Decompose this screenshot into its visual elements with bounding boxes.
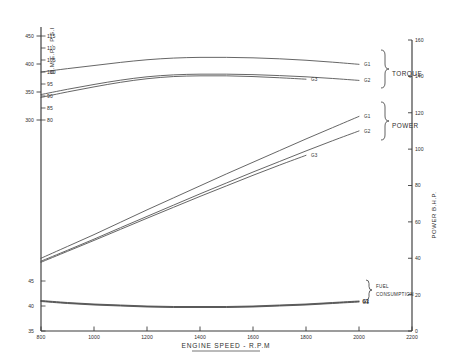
x-tick-label: 2200 bbox=[406, 334, 418, 340]
group-fuel-annotation: FUEL CONSUMPTION bbox=[366, 280, 414, 300]
power-tick-label: 20 bbox=[415, 292, 421, 298]
x-axis-title: ENGINE SPEED - R.P.M bbox=[182, 342, 271, 349]
group-label-fuel-line1: FUEL bbox=[376, 284, 389, 289]
torque-tick-label: 450 bbox=[25, 33, 34, 39]
chart-canvas: 300350400450 80859095100105110115 354045… bbox=[0, 0, 462, 361]
curve-power-g3 bbox=[41, 155, 306, 262]
power-tick-label: 40 bbox=[415, 255, 421, 261]
y-axis-right-title: POWER B.H.P. bbox=[431, 192, 437, 239]
power-tick-label: 60 bbox=[415, 219, 421, 225]
power-tick-label: 100 bbox=[415, 146, 424, 152]
group-label-fuel-line2: CONSUMPTION bbox=[376, 292, 414, 297]
curve-group bbox=[41, 57, 359, 307]
group-power-annotation: POWER bbox=[381, 102, 419, 140]
axis-lines bbox=[41, 27, 412, 331]
x-tick-label: 1400 bbox=[194, 334, 206, 340]
torque-brace bbox=[381, 50, 389, 88]
bmep-tick-label: 85 bbox=[47, 105, 53, 111]
torque-tick-label: 300 bbox=[25, 117, 34, 123]
bmep-tick-label: 95 bbox=[47, 81, 53, 87]
x-tick-group: 8001000120014001600180020002200 bbox=[37, 327, 418, 340]
left-outer-tick-group: 300350400450 bbox=[25, 33, 41, 123]
torque-tick-label: 350 bbox=[25, 89, 34, 95]
power-brace bbox=[381, 102, 389, 140]
series-label-g1: G1 bbox=[364, 62, 371, 67]
bmep-tick-label: 80 bbox=[47, 117, 53, 123]
y-axis-left-title: B.M.E.P - P.S.I bbox=[49, 27, 55, 74]
x-tick-label: 1800 bbox=[300, 334, 312, 340]
group-torque-annotation: TORQUE bbox=[381, 50, 422, 88]
series-label-g2: G2 bbox=[364, 129, 371, 134]
power-tick-label: 120 bbox=[415, 110, 424, 116]
series-label-g2: G2 bbox=[364, 78, 371, 83]
series-label-g3: G3 bbox=[363, 300, 370, 305]
x-tick-label: 1000 bbox=[88, 334, 100, 340]
fuel-tick-label: 40 bbox=[28, 303, 34, 309]
series-label-group: G1G2G3G1G2G3G1G2G3 bbox=[311, 62, 371, 305]
series-label-g1: G1 bbox=[364, 114, 371, 119]
x-tick-label: 800 bbox=[37, 334, 46, 340]
fuel-brace bbox=[366, 280, 372, 300]
x-tick-label: 1600 bbox=[247, 334, 259, 340]
fuel-tick-label: 35 bbox=[28, 328, 34, 334]
series-label-g3: G3 bbox=[311, 153, 318, 158]
power-tick-label: 80 bbox=[415, 182, 421, 188]
series-label-g3: G3 bbox=[311, 77, 318, 82]
torque-tick-label: 400 bbox=[25, 61, 34, 67]
x-tick-label: 2000 bbox=[353, 334, 365, 340]
right-tick-group: 020406080100120140160 bbox=[408, 37, 424, 334]
left-lower-tick-group: 354045 bbox=[28, 278, 45, 334]
curve-torque-g1 bbox=[41, 57, 359, 72]
fuel-tick-label: 45 bbox=[28, 278, 34, 284]
curve-fuel-consumption-g1 bbox=[41, 301, 359, 307]
group-label-power: POWER bbox=[392, 122, 419, 129]
engine-performance-chart: 300350400450 80859095100105110115 354045… bbox=[0, 0, 462, 361]
x-tick-label: 1200 bbox=[141, 334, 153, 340]
group-label-torque: TORQUE bbox=[392, 70, 422, 78]
power-tick-label: 160 bbox=[415, 37, 424, 43]
curve-power-g1 bbox=[41, 116, 359, 258]
